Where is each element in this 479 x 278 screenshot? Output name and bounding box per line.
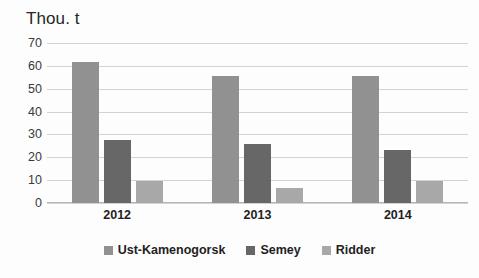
y-axis-tick-label: 40 (2, 105, 42, 119)
chart-legend: Ust-KamenogorskSemeyRidder (0, 243, 479, 257)
bar[interactable] (384, 150, 411, 203)
legend-item[interactable]: Semey (246, 243, 300, 257)
bar[interactable] (72, 62, 99, 203)
bar[interactable] (276, 188, 303, 203)
legend-label: Ust-Kamenogorsk (118, 243, 226, 257)
bar-group (187, 43, 327, 203)
bar[interactable] (416, 181, 443, 203)
legend-item[interactable]: Ust-Kamenogorsk (104, 243, 226, 257)
x-axis-label: 2014 (328, 208, 468, 222)
y-axis-tick-label: 60 (2, 59, 42, 73)
y-axis-tick-label: 10 (2, 173, 42, 187)
bar[interactable] (244, 144, 271, 203)
bar[interactable] (104, 140, 131, 203)
bar[interactable] (136, 181, 163, 203)
legend-swatch-icon (322, 246, 331, 255)
bar-group (328, 43, 468, 203)
legend-swatch-icon (246, 246, 255, 255)
y-axis-tick-label: 0 (2, 196, 42, 210)
y-axis-tick-label: 20 (2, 150, 42, 164)
legend-swatch-icon (104, 246, 113, 255)
gridline (47, 203, 468, 204)
chart-title: Thou. t (26, 9, 80, 29)
y-axis-tick-label: 70 (2, 36, 42, 50)
bar[interactable] (352, 76, 379, 203)
bar-group (47, 43, 187, 203)
legend-item[interactable]: Ridder (322, 243, 376, 257)
legend-label: Semey (260, 243, 300, 257)
bar[interactable] (212, 76, 239, 203)
legend-label: Ridder (336, 243, 376, 257)
bar-chart: Thou. t 706050403020100 201220132014 Ust… (0, 0, 479, 278)
x-axis-label: 2012 (47, 208, 187, 222)
x-axis-label: 2013 (187, 208, 327, 222)
y-axis-tick-label: 30 (2, 127, 42, 141)
y-axis-tick-label: 50 (2, 82, 42, 96)
plot-area (47, 43, 468, 203)
